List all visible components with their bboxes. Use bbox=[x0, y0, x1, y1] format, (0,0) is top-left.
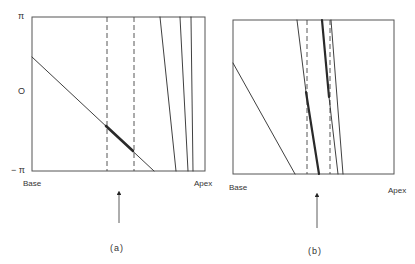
panel-a-x-label-apex: Apex bbox=[194, 179, 212, 188]
phase-line bbox=[106, 126, 133, 151]
phase-line bbox=[331, 20, 343, 174]
panel-b-caption: (b) bbox=[308, 246, 322, 256]
panel-a-y-label-zero: O bbox=[18, 86, 25, 96]
panel-b-x-label-apex: Apex bbox=[388, 186, 406, 195]
panel-a-x-label-base: Base bbox=[23, 179, 41, 188]
phase-line bbox=[191, 17, 193, 171]
phase-line bbox=[180, 17, 188, 171]
panel-a-caption: (a) bbox=[110, 243, 124, 253]
phase-line bbox=[32, 57, 154, 171]
plot-frame bbox=[32, 17, 205, 171]
phase-line bbox=[306, 92, 319, 174]
plot-frame bbox=[233, 20, 394, 174]
phase-line bbox=[233, 63, 295, 174]
panel-a-y-label-pi: π bbox=[18, 11, 24, 21]
panel-b-x-label-base: Base bbox=[229, 183, 247, 192]
panel-a-y-label-neg-pi: − π bbox=[11, 165, 25, 175]
panel-a-plot bbox=[32, 17, 205, 223]
phase-line bbox=[297, 20, 306, 92]
phase-diagram-figure bbox=[0, 0, 415, 264]
phase-line bbox=[160, 17, 176, 171]
phase-line bbox=[322, 20, 329, 97]
panel-b-plot bbox=[233, 20, 394, 228]
